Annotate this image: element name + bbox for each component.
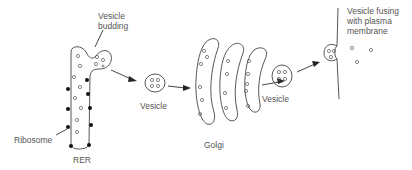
label-golgi: Golgi (204, 140, 224, 150)
arrow-vesicle-to-membrane (297, 61, 320, 72)
transport-vesicle (145, 74, 165, 92)
label-vesicle-2: Vesicle (262, 94, 289, 104)
label-vesicle-budding: Vesicle budding (98, 11, 128, 31)
arrow-rer-to-vesicle (111, 70, 137, 82)
arrow-vesicle-to-golgi (168, 85, 191, 91)
budding-leader-line (95, 30, 103, 47)
ribosome-leader-line (56, 129, 67, 135)
label-rer: RER (73, 155, 91, 165)
secretory-vesicle (272, 65, 292, 87)
rer-body (71, 47, 111, 149)
label-vesicle-fusing: Vesicle fusing with plasma membrane (347, 6, 399, 36)
label-ribosome: Ribosome (14, 135, 52, 145)
label-vesicle-1: Vesicle (140, 101, 167, 111)
golgi-apparatus (196, 39, 267, 125)
